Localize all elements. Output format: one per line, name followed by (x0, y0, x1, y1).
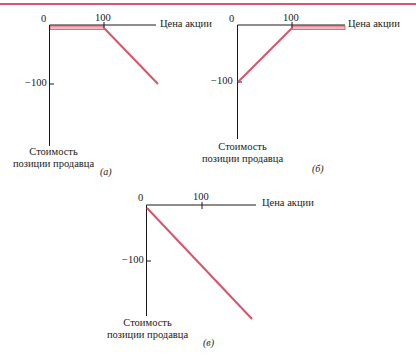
chart-a-caption: (а) (100, 166, 112, 177)
chart-c-caption: (в) (203, 337, 214, 348)
chart-a (50, 22, 159, 146)
chart-b-x-origin-label: 0 (229, 13, 234, 24)
chart-b-flat-segment (292, 26, 345, 30)
chart-a-y-axis-label-line2: позиции продавца (6, 158, 101, 170)
chart-c-x-origin-label: 0 (138, 192, 143, 203)
chart-a-x-tick-label: 100 (95, 12, 111, 23)
chart-c-x-tick-label: 100 (193, 191, 209, 202)
chart-a-y-axis-label-line1: Стоимость (6, 146, 101, 158)
chart-a-x-axis-label: Цена акции (160, 18, 212, 29)
chart-a-x-origin-label: 0 (41, 13, 46, 24)
chart-b-x-tick-label: 100 (283, 12, 299, 23)
chart-b-y-axis-label: Стоимость позиции продавца (195, 141, 290, 165)
chart-a-y-tick-label: −100 (25, 77, 47, 88)
chart-c-y-axis-label-line2: позиции продавца (100, 329, 195, 341)
chart-c-x-axis-label: Цена акции (262, 197, 314, 208)
chart-c-y-axis-label: Стоимость позиции продавца (100, 317, 195, 341)
chart-a-y-axis-label: Стоимость позиции продавца (6, 146, 101, 170)
charts-canvas (0, 0, 416, 358)
chart-c (147, 202, 257, 319)
chart-b-payoff-line (238, 28, 292, 82)
chart-c-y-axis-label-line1: Стоимость (100, 317, 195, 329)
chart-b (238, 22, 346, 139)
chart-b-y-axis-label-line1: Стоимость (195, 141, 290, 153)
chart-b-x-axis-label: Цена акции (348, 18, 400, 29)
chart-b-y-tick-label: −100 (211, 75, 233, 86)
chart-c-y-tick-label: −100 (122, 254, 144, 265)
chart-a-payoff-line (104, 28, 158, 84)
chart-c-payoff-line (147, 208, 252, 319)
chart-b-caption: (б) (312, 163, 324, 174)
chart-a-flat-segment (50, 26, 104, 30)
chart-b-y-axis-label-line2: позиции продавца (195, 153, 290, 165)
